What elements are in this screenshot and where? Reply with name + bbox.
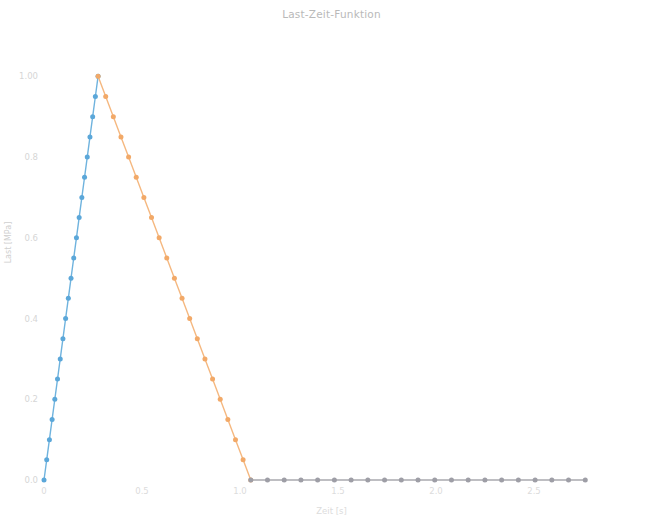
series-0 (42, 74, 101, 483)
data-point-marker (82, 175, 87, 180)
data-point-marker (71, 255, 76, 260)
data-point-marker (85, 155, 90, 160)
series-2 (248, 478, 588, 483)
data-point-marker (210, 377, 215, 382)
data-point-marker (516, 478, 521, 483)
data-point-marker (47, 437, 52, 442)
data-point-marker (180, 296, 185, 301)
data-point-marker (202, 356, 207, 361)
data-point-marker (52, 397, 57, 402)
data-point-marker (74, 235, 79, 240)
data-point-marker (164, 255, 169, 260)
data-point-marker (248, 478, 253, 483)
data-point-marker (499, 478, 504, 483)
y-tick-label: 0.2 (0, 394, 38, 404)
x-tick-label: 1.5 (331, 486, 345, 496)
x-tick-label: 0 (41, 486, 46, 496)
data-point-marker (66, 296, 71, 301)
y-tick-label: 1.00 (0, 71, 38, 81)
y-tick-label: 0.8 (0, 152, 38, 162)
data-point-marker (449, 478, 454, 483)
data-point-marker (195, 336, 200, 341)
data-point-marker (233, 437, 238, 442)
data-point-marker (55, 377, 60, 382)
plot-area (44, 40, 583, 480)
data-point-marker (349, 478, 354, 483)
data-point-marker (482, 478, 487, 483)
data-point-marker (42, 478, 47, 483)
data-point-marker (134, 175, 139, 180)
y-tick-label: 0.0 (0, 475, 38, 485)
data-point-marker (549, 478, 554, 483)
data-point-marker (172, 276, 177, 281)
data-point-marker (416, 478, 421, 483)
data-point-marker (126, 155, 131, 160)
chart-title: Last-Zeit-Funktion (0, 8, 663, 20)
data-point-marker (365, 478, 370, 483)
data-point-marker (44, 457, 49, 462)
data-point-marker (533, 478, 538, 483)
data-point-marker (118, 134, 123, 139)
data-point-marker (93, 94, 98, 99)
y-axis-label: Last [MPa] (4, 213, 13, 273)
data-point-marker (399, 478, 404, 483)
data-point-marker (315, 478, 320, 483)
x-tick-label: 0.5 (135, 486, 149, 496)
data-point-marker (265, 478, 270, 483)
x-tick-label: 2.5 (527, 486, 541, 496)
data-point-marker (225, 417, 230, 422)
data-point-marker (69, 276, 74, 281)
data-point-marker (218, 397, 223, 402)
data-point-marker (79, 195, 84, 200)
data-point-marker (241, 457, 246, 462)
data-point-marker (63, 316, 68, 321)
x-tick-label: 2.0 (429, 486, 443, 496)
data-point-marker (60, 336, 65, 341)
data-point-marker (282, 478, 287, 483)
data-point-marker (58, 356, 63, 361)
data-point-marker (77, 215, 82, 220)
data-point-marker (141, 195, 146, 200)
data-point-marker (187, 316, 192, 321)
data-point-marker (96, 74, 101, 79)
data-point-marker (149, 215, 154, 220)
data-point-marker (50, 417, 55, 422)
x-axis-label: Zeit [s] (0, 506, 663, 516)
chart-figure: Last-Zeit-Funktion 0.00.20.40.60.81.00 L… (0, 0, 663, 524)
series-1 (96, 74, 254, 483)
data-point-marker (298, 478, 303, 483)
data-point-marker (382, 478, 387, 483)
data-point-marker (157, 235, 162, 240)
data-point-marker (103, 94, 108, 99)
data-point-marker (87, 134, 92, 139)
y-tick-label: 0.4 (0, 314, 38, 324)
plot-canvas (44, 40, 583, 480)
data-point-marker (90, 114, 95, 119)
data-point-marker (111, 114, 116, 119)
x-tick-label: 1.0 (233, 486, 247, 496)
data-point-marker (583, 478, 588, 483)
data-point-marker (566, 478, 571, 483)
data-point-marker (432, 478, 437, 483)
data-point-marker (466, 478, 471, 483)
data-point-marker (332, 478, 337, 483)
